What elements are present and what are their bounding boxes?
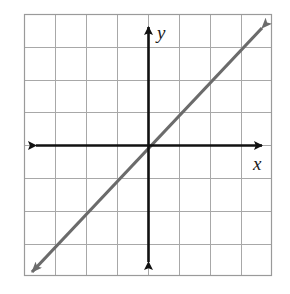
y-axis-label: y <box>155 22 166 43</box>
graph-svg: y x <box>0 0 290 294</box>
coordinate-graph-figure: y x <box>0 0 290 294</box>
x-axis-label: x <box>252 153 262 174</box>
